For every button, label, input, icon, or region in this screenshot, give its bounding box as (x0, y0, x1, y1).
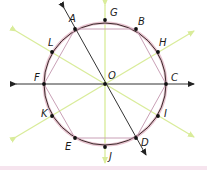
point-e-dot (73, 136, 77, 140)
point-c-dot (164, 82, 168, 86)
point-b-dot (134, 27, 138, 31)
circle-hexagon-diagram: ABCDEFGHIJKLO (0, 0, 207, 170)
point-j-label: J (107, 151, 112, 162)
point-o-dot (103, 82, 107, 86)
point-d-label: D (141, 137, 149, 148)
point-l-dot (50, 50, 54, 54)
point-h-label: H (159, 37, 167, 48)
point-a-dot (73, 27, 77, 31)
point-o-label: O (108, 70, 116, 81)
point-l-label: L (48, 37, 54, 48)
point-g-dot (103, 18, 107, 22)
point-b-label: B (138, 16, 145, 27)
point-c-label: C (171, 72, 178, 83)
footer-band (0, 166, 207, 170)
point-j-dot (103, 145, 107, 149)
point-a-label: A (68, 13, 76, 24)
point-k-dot (50, 114, 54, 118)
point-i-dot (156, 114, 160, 118)
point-f-dot (42, 82, 46, 86)
point-g-label: G (110, 7, 118, 18)
point-d-dot (134, 136, 138, 140)
point-e-label: E (65, 141, 72, 152)
point-f-label: F (34, 72, 40, 83)
point-h-dot (156, 50, 160, 54)
point-i-label: I (164, 108, 167, 119)
